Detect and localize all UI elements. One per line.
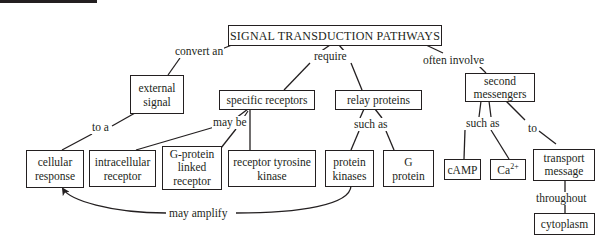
node-text: cytoplasm [541,217,588,231]
link-label-often-involve: often involve [422,54,485,67]
node-text: Ca2+ [497,163,518,177]
node-text-line: receptor [104,169,142,183]
node-text-line: linked [178,161,207,175]
node-protein-kinases: protein kinases [325,150,374,187]
node-relay-proteins: relay proteins [335,90,422,110]
node-text-line: receptor [173,175,211,189]
node-specific-receptors: specific receptors [219,90,315,110]
link-label-such-as-relay: such as [353,118,389,131]
node-camp: cAMP [444,159,481,180]
node-text-line: G-protein [170,148,215,162]
link-label-convert-an: convert an [174,45,224,58]
node-text-line: second [484,75,516,88]
node-text-line: external [138,81,175,95]
node-cellular-response: cellular response [26,150,84,188]
node-text-line: signal [143,95,170,109]
node-signal-transduction-pathways: SIGNAL TRANSDUCTION PATHWAYS [228,25,442,46]
node-intracellular-receptor: intracellular receptor [89,150,156,187]
node-text-line: receptor tyrosine [233,155,311,169]
node-text-line: G [404,155,412,169]
node-receptor-tyrosine-kinase: receptor tyrosine kinase [228,150,316,187]
node-calcium: Ca2+ [490,159,526,180]
node-text-line: cellular [38,155,72,169]
calcium-base: Ca [497,164,510,176]
link-label-to-a: to a [91,121,110,134]
calcium-charge: 2+ [510,162,519,171]
node-text-line: intracellular [95,155,151,169]
node-text-line: transport [544,152,585,166]
node-text-line: kinase [257,169,286,183]
node-cytoplasm: cytoplasm [534,213,595,235]
node-g-protein-linked-receptor: G-protein linked receptor [162,146,222,190]
node-transport-message: transport message [533,149,595,181]
node-text: specific receptors [227,93,308,107]
link-label-such-as-messengers: such as [465,117,501,130]
node-title-text: SIGNAL TRANSDUCTION PATHWAYS [230,29,440,43]
node-text-line: message [545,165,584,179]
link-label-require: require [313,50,348,63]
link-label-throughout: throughout [535,192,587,205]
link-label-to: to [527,122,538,135]
node-text-line: kinases [333,169,367,183]
node-text-line: messengers [473,88,526,101]
node-g-protein: G protein [383,150,434,187]
node-text-line: response [35,169,75,183]
node-second-messengers: second messengers [465,73,535,102]
node-text: relay proteins [347,93,410,107]
node-text-line: protein [333,155,366,169]
node-text-line: protein [392,169,425,183]
node-external-signal: external signal [130,75,184,114]
link-label-may-be: may be [212,116,248,129]
node-text: cAMP [447,163,477,177]
link-label-may-amplify: may amplify [168,207,228,220]
